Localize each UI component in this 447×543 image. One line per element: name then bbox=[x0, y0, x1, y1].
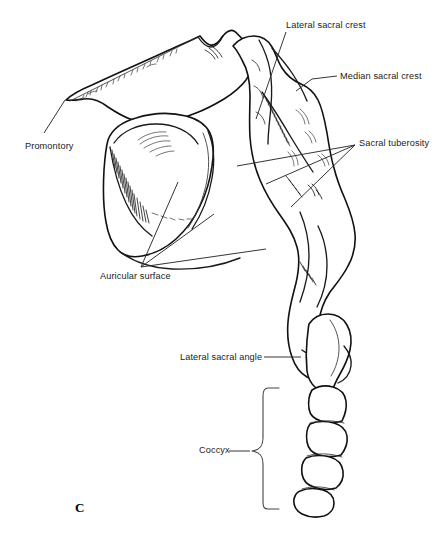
label-auricular-surface: Auricular surface bbox=[100, 271, 171, 282]
coccyx-segment-3 bbox=[302, 456, 343, 490]
sacral-ala-outline bbox=[66, 30, 258, 122]
coccyx-segment-1 bbox=[309, 386, 347, 423]
sacral-apex-outline bbox=[306, 314, 351, 393]
label-median-sacral-crest: Median sacral crest bbox=[340, 71, 422, 82]
leader-auricular-surface-3 bbox=[141, 249, 266, 267]
leader-promontory bbox=[44, 100, 65, 133]
label-lateral-sacral-crest: Lateral sacral crest bbox=[286, 20, 366, 31]
coccyx-segment-2 bbox=[307, 422, 348, 457]
label-promontory: Promontory bbox=[25, 141, 74, 152]
anatomy-figure: Lateral sacral crest Median sacral crest… bbox=[0, 0, 447, 543]
panel-letter: C bbox=[75, 500, 84, 516]
sacral-body-group bbox=[103, 114, 240, 270]
sacral-ala-group bbox=[66, 30, 258, 122]
label-sacral-tuberosity: Sacral tuberosity bbox=[359, 138, 429, 149]
label-lateral-sacral-angle: Lateral sacral angle bbox=[180, 352, 262, 363]
coccyx-segment-4 bbox=[294, 489, 334, 517]
label-coccyx: Coccyx bbox=[199, 445, 230, 456]
coccyx-group bbox=[294, 386, 347, 517]
sacral-body-outline bbox=[103, 114, 213, 257]
sacro-coccygeal-junction-group bbox=[306, 314, 351, 393]
coccyx-brace bbox=[252, 388, 279, 509]
coccyx-brace-path bbox=[252, 388, 279, 509]
